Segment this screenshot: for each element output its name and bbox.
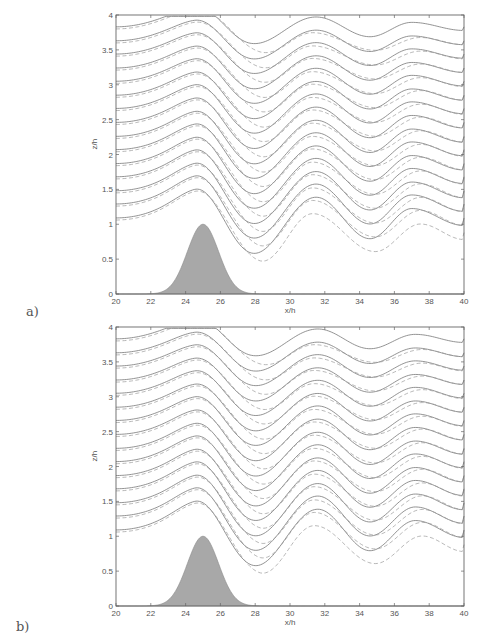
x-tick-label: 32 bbox=[320, 297, 329, 306]
x-tick-label: 30 bbox=[286, 297, 295, 306]
y-tick-label: 4 bbox=[109, 11, 114, 20]
x-axis-label: x/h bbox=[285, 618, 296, 627]
streamline bbox=[116, 191, 464, 261]
topography-hill bbox=[116, 536, 464, 606]
y-tick-label: 3.5 bbox=[102, 46, 114, 55]
streamline bbox=[116, 165, 464, 231]
solid-streamlines bbox=[116, 328, 464, 565]
y-tick-label: 3.5 bbox=[102, 358, 114, 367]
x-tick-label: 28 bbox=[251, 609, 260, 618]
streamline bbox=[116, 124, 464, 178]
y-tick-label: 0.5 bbox=[102, 567, 114, 576]
topography-hill bbox=[116, 224, 464, 294]
x-tick-label: 26 bbox=[216, 609, 225, 618]
streamline bbox=[116, 16, 464, 43]
streamline bbox=[116, 332, 464, 371]
streamline bbox=[116, 490, 464, 558]
streamline bbox=[116, 189, 464, 253]
x-tick-label: 22 bbox=[146, 609, 155, 618]
streamline bbox=[116, 74, 464, 127]
streamline bbox=[116, 178, 464, 246]
streamline bbox=[116, 462, 464, 521]
dashed-streamlines bbox=[116, 328, 464, 573]
x-tick-label: 26 bbox=[216, 297, 225, 306]
y-tick-label: 1 bbox=[109, 532, 114, 541]
streamline bbox=[116, 16, 464, 52]
y-axis-label: z/h bbox=[90, 139, 99, 150]
streamline bbox=[116, 20, 464, 59]
x-tick-label: 36 bbox=[390, 609, 399, 618]
y-tick-label: 3 bbox=[109, 81, 114, 90]
y-tick-label: 2 bbox=[109, 463, 114, 472]
streamline bbox=[116, 436, 464, 491]
streamline bbox=[116, 328, 464, 355]
x-axis-label: x/h bbox=[285, 306, 296, 315]
y-tick-label: 3 bbox=[109, 393, 114, 402]
x-tick-label: 28 bbox=[251, 297, 260, 306]
x-tick-label: 38 bbox=[425, 609, 434, 618]
solid-streamlines bbox=[116, 16, 464, 253]
x-tick-label: 32 bbox=[320, 609, 329, 618]
x-tick-label: 38 bbox=[425, 297, 434, 306]
streamline bbox=[116, 386, 464, 439]
streamline bbox=[116, 488, 464, 550]
x-tick-label: 24 bbox=[181, 297, 190, 306]
x-tick-label: 24 bbox=[181, 609, 190, 618]
y-tick-label: 2 bbox=[109, 151, 114, 160]
x-tick-label: 34 bbox=[355, 297, 364, 306]
plot-frame bbox=[116, 15, 464, 294]
streamline bbox=[116, 139, 464, 202]
streamline bbox=[116, 503, 464, 573]
x-tick-label: 40 bbox=[460, 297, 469, 306]
streamline bbox=[116, 373, 464, 424]
y-tick-label: 0.5 bbox=[102, 255, 114, 264]
streamline bbox=[116, 126, 464, 187]
panel-a: 202224262830323436384000.511.522.533.54x… bbox=[0, 0, 484, 318]
y-tick-label: 1.5 bbox=[102, 185, 114, 194]
x-tick-label: 36 bbox=[390, 297, 399, 306]
chart-a: 202224262830323436384000.511.522.533.54x… bbox=[0, 0, 484, 318]
streamline bbox=[116, 328, 464, 364]
y-tick-label: 2.5 bbox=[102, 116, 114, 125]
streamline bbox=[116, 137, 464, 193]
y-tick-label: 4 bbox=[109, 323, 114, 332]
streamline bbox=[116, 163, 464, 223]
streamline bbox=[116, 449, 464, 506]
x-tick-label: 30 bbox=[286, 609, 295, 618]
x-tick-label: 40 bbox=[460, 609, 469, 618]
y-tick-label: 0 bbox=[109, 602, 114, 611]
y-tick-label: 2.5 bbox=[102, 428, 114, 437]
panel-label-b: b) bbox=[16, 619, 29, 634]
y-axis-label: z/h bbox=[90, 451, 99, 462]
y-tick-label: 1.5 bbox=[102, 497, 114, 506]
y-tick-label: 1 bbox=[109, 220, 114, 229]
streamline bbox=[116, 412, 464, 469]
dashed-streamlines bbox=[116, 16, 464, 261]
x-tick-label: 22 bbox=[146, 297, 155, 306]
y-tick-label: 0 bbox=[109, 290, 114, 299]
panel-b: 202224262830323436384000.511.522.533.54x… bbox=[0, 318, 484, 637]
panel-label-a: a) bbox=[26, 304, 39, 319]
x-tick-label: 34 bbox=[355, 609, 364, 618]
chart-b: 202224262830323436384000.511.522.533.54x… bbox=[0, 318, 484, 637]
